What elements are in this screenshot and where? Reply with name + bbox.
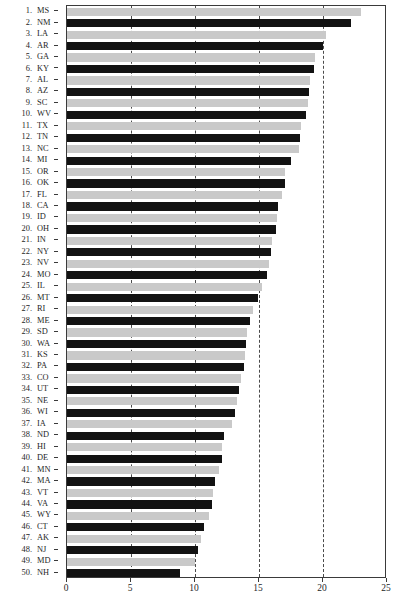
bar-row (67, 258, 385, 269)
bar-SC[interactable] (67, 99, 308, 107)
y-label-RI: 27.RI (0, 303, 58, 314)
bar-NE[interactable] (67, 397, 237, 405)
y-label-ND: 38.ND (0, 429, 58, 440)
bar-SD[interactable] (67, 328, 247, 336)
y-tick-mark (54, 388, 58, 389)
y-label-rank: 12. (12, 132, 32, 141)
bar-IN[interactable] (67, 237, 272, 245)
bar-row (67, 396, 385, 407)
x-tick-label-15: 15 (253, 583, 263, 593)
bar-MD[interactable] (67, 558, 195, 566)
y-label-WA: 30.WA (0, 337, 58, 348)
bar-AK[interactable] (67, 535, 201, 543)
y-label-rank: 43. (12, 488, 32, 497)
bar-FL[interactable] (67, 191, 282, 199)
bar-CA[interactable] (67, 202, 278, 210)
bar-MI[interactable] (67, 157, 291, 165)
y-label-rank: 32. (12, 361, 32, 370)
bar-OK[interactable] (67, 179, 285, 187)
y-tick-mark (54, 205, 58, 206)
y-tick-mark (54, 251, 58, 252)
y-label-ME: 28.ME (0, 314, 58, 325)
bar-ME[interactable] (67, 317, 250, 325)
bar-UT[interactable] (67, 386, 239, 394)
y-label-AK: 47.AK (0, 532, 58, 543)
y-label-KY: 6.KY (0, 62, 58, 73)
y-label-rank: 33. (12, 373, 32, 382)
bar-LA[interactable] (67, 31, 326, 39)
bar-TX[interactable] (67, 122, 301, 130)
bar-IL[interactable] (67, 283, 262, 291)
bar-DE[interactable] (67, 455, 222, 463)
y-tick-mark (54, 56, 58, 57)
bar-row (67, 338, 385, 349)
bar-row (67, 510, 385, 521)
bar-CO[interactable] (67, 374, 241, 382)
y-label-GA: 5.GA (0, 51, 58, 62)
y-label-rank: 17. (12, 190, 32, 199)
y-label-rank: 28. (12, 316, 32, 325)
bar-MA[interactable] (67, 477, 215, 485)
y-label-SC: 9.SC (0, 97, 58, 108)
bar-IA[interactable] (67, 420, 232, 428)
bar-WV[interactable] (67, 111, 306, 119)
bar-NV[interactable] (67, 260, 269, 268)
bar-MO[interactable] (67, 271, 267, 279)
bar-ND[interactable] (67, 432, 224, 440)
bar-row (67, 29, 385, 40)
bar-row (67, 75, 385, 86)
x-tick-label-25: 25 (381, 583, 391, 593)
bar-row (67, 556, 385, 567)
y-label-IA: 37.IA (0, 418, 58, 429)
bar-ID[interactable] (67, 214, 277, 222)
bar-row (67, 419, 385, 430)
bar-row (67, 407, 385, 418)
bar-HI[interactable] (67, 443, 222, 451)
bar-WI[interactable] (67, 409, 235, 417)
bar-AL[interactable] (67, 76, 310, 84)
bar-RI[interactable] (67, 306, 253, 314)
bar-row (67, 522, 385, 533)
bar-MN[interactable] (67, 466, 219, 474)
bar-NY[interactable] (67, 248, 271, 256)
y-tick-mark (54, 549, 58, 550)
bar-row (67, 384, 385, 395)
bar-MS[interactable] (67, 8, 361, 16)
y-tick-mark (54, 182, 58, 183)
bar-OH[interactable] (67, 225, 276, 233)
bar-TN[interactable] (67, 134, 300, 142)
y-label-WV: 10.WV (0, 108, 58, 119)
bar-AR[interactable] (67, 42, 323, 50)
bar-row (67, 373, 385, 384)
bar-WA[interactable] (67, 340, 246, 348)
y-tick-mark (54, 102, 58, 103)
bar-GA[interactable] (67, 53, 315, 61)
bar-NC[interactable] (67, 145, 299, 153)
y-label-MO: 24.MO (0, 269, 58, 280)
bar-row (67, 476, 385, 487)
bar-CT[interactable] (67, 523, 204, 531)
bar-AZ[interactable] (67, 88, 309, 96)
bar-PA[interactable] (67, 363, 244, 371)
bar-KS[interactable] (67, 351, 245, 359)
bar-WY[interactable] (67, 512, 209, 520)
bar-MT[interactable] (67, 294, 258, 302)
x-axis: 0510152025 (66, 578, 386, 599)
bar-row (67, 533, 385, 544)
y-label-rank: 15. (12, 167, 32, 176)
bar-NJ[interactable] (67, 546, 198, 554)
y-label-NJ: 48.NJ (0, 544, 58, 555)
bar-VA[interactable] (67, 500, 212, 508)
x-tick-label-10: 10 (189, 583, 199, 593)
bar-NH[interactable] (67, 569, 180, 577)
bar-NM[interactable] (67, 19, 351, 27)
bar-row (67, 350, 385, 361)
y-label-rank: 38. (12, 430, 32, 439)
y-label-FL: 17.FL (0, 188, 58, 199)
bar-OR[interactable] (67, 168, 285, 176)
y-tick-mark (54, 354, 58, 355)
bar-VT[interactable] (67, 489, 213, 497)
y-tick-mark (54, 434, 58, 435)
bar-KY[interactable] (67, 65, 314, 73)
bar-row (67, 304, 385, 315)
